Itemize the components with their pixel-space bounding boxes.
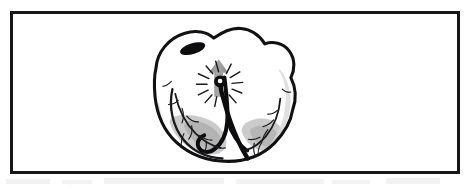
scan-artifact bbox=[236, 179, 324, 184]
scan-artifact bbox=[332, 180, 370, 184]
figure-page: Line drawing of a heart viewed from the … bbox=[0, 0, 469, 188]
scan-artifact bbox=[62, 180, 92, 184]
scan-artifact bbox=[6, 179, 50, 184]
scan-artifact bbox=[104, 178, 224, 184]
scan-artifact bbox=[386, 178, 440, 184]
heart-illustration bbox=[13, 14, 457, 171]
figure-alt-text: Line drawing of a heart viewed from the … bbox=[0, 186, 387, 188]
electrode-tip-icon bbox=[214, 75, 226, 87]
figure-frame bbox=[10, 11, 460, 174]
